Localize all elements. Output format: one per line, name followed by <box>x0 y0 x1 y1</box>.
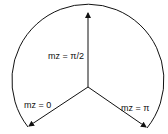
label-mz-pi: mz = π <box>121 103 149 113</box>
label-mz-pi-half: mz = π/2 <box>48 51 84 61</box>
label-mz-zero: mz = 0 <box>24 100 51 110</box>
diagram-canvas <box>0 0 168 134</box>
